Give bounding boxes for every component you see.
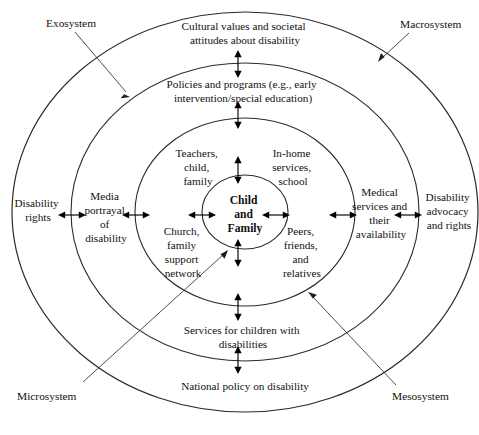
diagram-canvas: Cultural values and societal attitudes a… [0, 0, 479, 435]
arrow-top-meso-micro [234, 156, 241, 184]
policies-programs-label: Policies and programs (e.g., early inter… [167, 78, 320, 105]
ecological-systems-diagram: Cultural values and societal attitudes a… [0, 0, 479, 435]
arrow-right-micro-meso [262, 211, 290, 218]
teachers-child-family-label: Teachers, child, family [175, 147, 220, 187]
peers-friends-label: Peers, friends, and relatives [283, 225, 321, 279]
arrow-top-macro-exo [234, 50, 241, 78]
arrow-top-exo-meso [234, 101, 241, 129]
mesosystem-callout-label: Mesosystem [392, 390, 449, 402]
arrow-bottom-meso-exo [234, 293, 241, 321]
services-children-label: Services for children with disabilities [184, 324, 303, 350]
national-policy-label: National policy on disability [181, 380, 309, 392]
arrow-right-meso-exo [329, 211, 357, 218]
medical-services-label: Medical services and their availability [352, 186, 410, 240]
exosystem-callout-label: Exosystem [46, 17, 96, 29]
mesosystem-leader [308, 292, 396, 385]
microsystem-callout-label: Microsystem [17, 390, 77, 402]
church-support-label: Church, family support network [164, 225, 203, 279]
in-home-services-label: In-home services, school [272, 147, 314, 187]
arrow-left-macro-exo [58, 211, 86, 218]
arrow-bottom-exo-macro [234, 346, 241, 374]
arrow-right-exo-macro [394, 211, 422, 218]
macrosystem-callout-label: Macrosystem [400, 18, 462, 30]
arrow-bottom-micro-meso [234, 239, 241, 267]
disability-advocacy-label: Disability advocacy and rights [426, 191, 473, 231]
cultural-values-label: Cultural values and societal attitudes a… [182, 20, 309, 46]
disability-rights-label: Disability rights [15, 197, 62, 223]
child-and-family-label: Child and Family [228, 194, 263, 235]
microsystem-leader [83, 250, 228, 382]
media-portrayal-label: Media portrayal of disability [84, 190, 127, 244]
